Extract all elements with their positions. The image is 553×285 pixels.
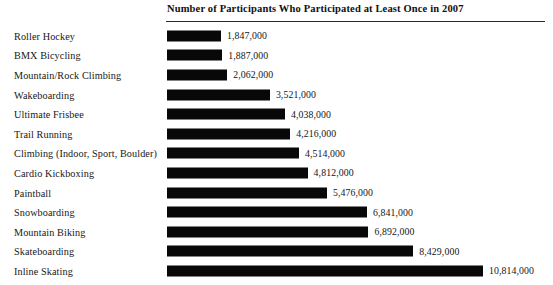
bar-track: 1,887,000 <box>167 50 553 61</box>
bar-track: 4,812,000 <box>167 167 553 178</box>
bar-category-label: Ultimate Frisbee <box>14 109 84 120</box>
bar-row: Wakeboarding3,521,000 <box>0 85 553 105</box>
bar-row: Snowboarding6,841,000 <box>0 202 553 222</box>
bar-value-label: 8,429,000 <box>419 246 459 257</box>
bar-track: 1,847,000 <box>167 30 553 41</box>
bar-category-label: Mountain Biking <box>14 226 85 237</box>
bar-row: Mountain Biking6,892,000 <box>0 222 553 242</box>
bar-row: Paintball5,476,000 <box>0 183 553 203</box>
bar-track: 4,038,000 <box>167 109 553 120</box>
bar-chart-figure: Number of Participants Who Participated … <box>0 0 553 285</box>
bar-value-label: 4,514,000 <box>305 148 345 159</box>
bar-fill <box>167 89 270 100</box>
bar-row: Climbing (Indoor, Sport, Boulder)4,514,0… <box>0 144 553 164</box>
bar-row: BMX Bicycling1,887,000 <box>0 46 553 66</box>
bar-fill <box>167 128 290 139</box>
bar-fill <box>167 167 308 178</box>
bar-track: 3,521,000 <box>167 89 553 100</box>
bar-category-label: Wakeboarding <box>14 89 74 100</box>
bar-category-label: Inline Skating <box>14 265 73 276</box>
bar-fill <box>167 30 221 41</box>
bar-value-label: 4,216,000 <box>296 128 336 139</box>
bar-track: 5,476,000 <box>167 187 553 198</box>
bar-value-label: 4,812,000 <box>314 167 354 178</box>
bar-category-label: Paintball <box>14 187 51 198</box>
bar-category-label: Roller Hockey <box>14 30 75 41</box>
bar-value-label: 2,062,000 <box>233 69 273 80</box>
bar-fill <box>167 226 368 237</box>
bar-category-label: Climbing (Indoor, Sport, Boulder) <box>14 148 157 159</box>
bar-fill <box>167 109 285 120</box>
bar-value-label: 3,521,000 <box>276 89 316 100</box>
bar-track: 4,514,000 <box>167 148 553 159</box>
bar-category-label: Cardio Kickboxing <box>14 167 94 178</box>
bar-row: Trail Running4,216,000 <box>0 124 553 144</box>
chart-title: Number of Participants Who Participated … <box>167 3 464 14</box>
bar-category-label: Mountain/Rock Climbing <box>14 69 121 80</box>
bar-fill <box>167 148 299 159</box>
bar-value-label: 5,476,000 <box>333 187 373 198</box>
bar-row: Ultimate Frisbee4,038,000 <box>0 104 553 124</box>
bar-category-label: Snowboarding <box>14 207 75 218</box>
bar-category-label: BMX Bicycling <box>14 50 81 61</box>
bar-value-label: 6,841,000 <box>373 207 413 218</box>
title-divider-rule <box>166 21 545 22</box>
bar-value-label: 1,847,000 <box>227 30 267 41</box>
bar-row: Inline Skating10,814,000 <box>0 261 553 281</box>
bar-track: 2,062,000 <box>167 69 553 80</box>
bar-category-label: Trail Running <box>14 128 72 139</box>
bar-value-label: 4,038,000 <box>291 109 331 120</box>
bar-fill <box>167 187 327 198</box>
bar-value-label: 1,887,000 <box>228 50 268 61</box>
bar-fill <box>167 69 227 80</box>
bar-row: Mountain/Rock Climbing2,062,000 <box>0 65 553 85</box>
bar-track: 6,892,000 <box>167 226 553 237</box>
bar-fill <box>167 265 483 276</box>
bar-fill <box>167 207 367 218</box>
bar-track: 4,216,000 <box>167 128 553 139</box>
bar-track: 8,429,000 <box>167 246 553 257</box>
bar-value-label: 10,814,000 <box>489 265 534 276</box>
bar-category-label: Skateboarding <box>14 246 74 257</box>
bar-fill <box>167 246 413 257</box>
bar-row: Cardio Kickboxing4,812,000 <box>0 163 553 183</box>
chart-plot-area: Roller Hockey1,847,000BMX Bicycling1,887… <box>0 26 553 281</box>
bar-track: 6,841,000 <box>167 207 553 218</box>
bar-row: Skateboarding8,429,000 <box>0 242 553 262</box>
bar-value-label: 6,892,000 <box>374 226 414 237</box>
bar-fill <box>167 50 222 61</box>
bar-row: Roller Hockey1,847,000 <box>0 26 553 46</box>
bar-track: 10,814,000 <box>167 265 553 276</box>
